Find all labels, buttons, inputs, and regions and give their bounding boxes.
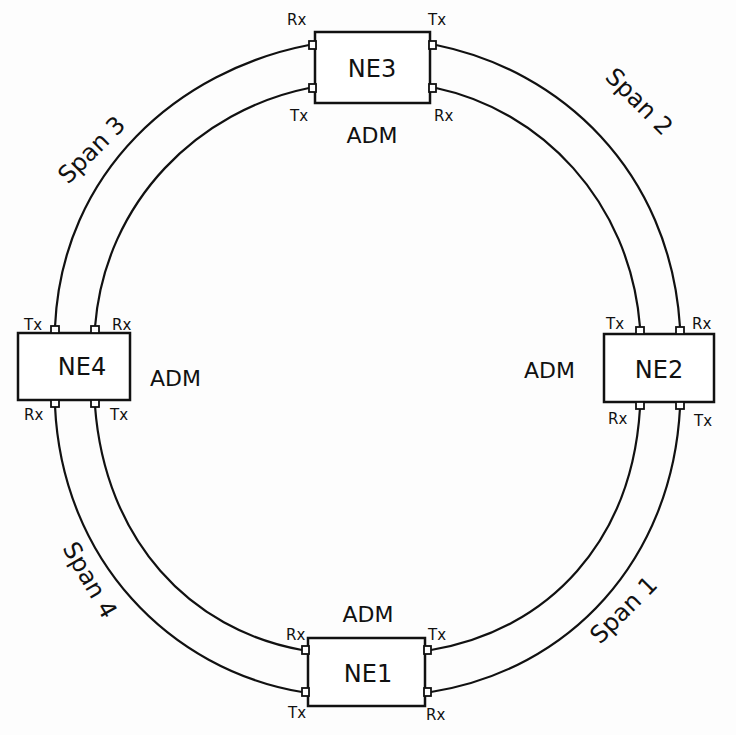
ring-network-diagram: NE3 Rx Tx Tx Rx ADM NE4 Tx Rx Rx Tx ADM … [0, 0, 736, 735]
span-3-outer-fiber [55, 45, 309, 327]
ne1-port-rx-bottom-right [424, 688, 431, 696]
ne4-port-label-bottom-left: Rx [24, 406, 43, 424]
ne1-port-tx-top-right [424, 646, 431, 654]
ne2-port-tx-bottom-right [676, 402, 684, 409]
ne1-type-label: ADM [343, 602, 394, 627]
ne4-port-rx-bottom-left [51, 400, 59, 407]
span-4-outer-fiber [55, 406, 302, 692]
span-3-label: Span 3 [52, 111, 131, 190]
ne3-type-label: ADM [347, 123, 398, 148]
ne2-port-label-bottom-left: Rx [608, 410, 627, 428]
ne1-port-label-bottom-right: Rx [426, 706, 445, 724]
ne3-label: NE3 [348, 55, 396, 83]
node-ne4[interactable]: NE4 Tx Rx Rx Tx ADM [18, 316, 201, 424]
node-ne1[interactable]: NE1 Rx Tx Tx Rx ADM [286, 602, 446, 724]
span-2-label: Span 2 [600, 62, 679, 141]
span-3-inner-fiber [95, 88, 309, 327]
ne2-type-label: ADM [524, 358, 575, 383]
ne4-label: NE4 [58, 353, 106, 381]
span-4-inner-fiber [95, 406, 302, 650]
node-ne2[interactable]: NE2 Tx Rx Rx Tx ADM [524, 315, 714, 430]
span-1-outer-fiber [431, 408, 680, 692]
ne2-port-rx-bottom-left [636, 402, 644, 409]
span-1-label: Span 1 [584, 571, 663, 650]
ne2-label: NE2 [635, 356, 683, 384]
span-4-label: Span 4 [57, 537, 123, 623]
ne4-port-label-bottom-right: Tx [109, 406, 128, 424]
ne4-port-tx-top-left [51, 326, 59, 333]
ne4-port-label-top-right: Rx [112, 316, 131, 334]
ne3-port-rx-top-left [309, 41, 316, 49]
span-2-inner-fiber [436, 88, 640, 327]
ne3-port-label-bottom-left: Tx [289, 107, 308, 125]
ne2-port-rx-top-right [676, 327, 684, 334]
ne1-port-label-top-right: Tx [427, 626, 446, 644]
ne2-port-label-top-right: Rx [692, 315, 711, 333]
node-ne3[interactable]: NE3 Rx Tx Tx Rx ADM [287, 11, 453, 148]
ne3-port-tx-top-right [429, 41, 436, 49]
ne3-port-label-bottom-right: Rx [434, 107, 453, 125]
ne1-port-tx-bottom-left [302, 688, 309, 696]
ne1-port-label-bottom-left: Tx [287, 704, 306, 722]
ne1-port-rx-top-left [302, 646, 309, 654]
ne1-port-label-top-left: Rx [286, 626, 305, 644]
ne4-port-tx-bottom-right [91, 400, 99, 407]
ne2-port-label-top-left: Tx [605, 315, 624, 333]
ne3-port-label-top-left: Rx [287, 11, 306, 29]
ne2-port-label-bottom-right: Tx [693, 412, 712, 430]
ne1-label: NE1 [344, 660, 392, 688]
ne3-port-tx-bottom-left [309, 84, 316, 92]
ne4-port-label-top-left: Tx [23, 316, 42, 334]
ne2-port-tx-top-left [636, 327, 644, 334]
ne3-port-rx-bottom-right [429, 84, 436, 92]
ne4-type-label: ADM [150, 366, 201, 391]
ne4-port-rx-top-right [91, 326, 99, 333]
ne3-port-label-top-right: Tx [427, 11, 446, 29]
